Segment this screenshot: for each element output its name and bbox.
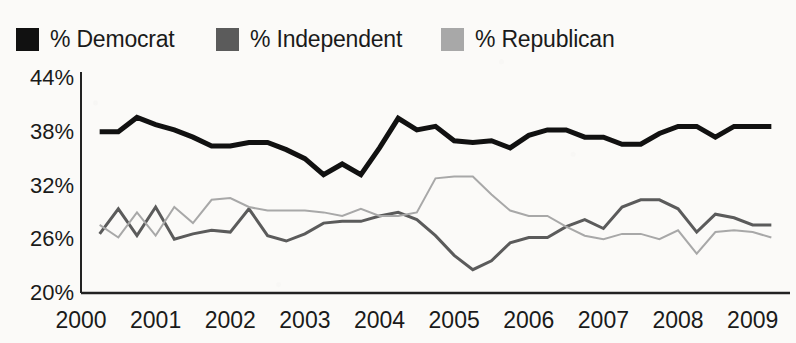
chart-legend: % Democrat % Independent % Republican bbox=[0, 18, 796, 64]
x-tick-label: 2002 bbox=[205, 307, 256, 334]
data-series-group bbox=[100, 117, 772, 269]
x-tick-label: 2000 bbox=[55, 307, 106, 334]
legend-swatch-democrat bbox=[16, 28, 39, 51]
x-tick-label: 2001 bbox=[130, 307, 181, 334]
legend-label-independent: % Independent bbox=[250, 26, 402, 53]
legend-item-democrat: % Democrat bbox=[16, 24, 175, 54]
x-tick-label: 2007 bbox=[578, 307, 629, 334]
legend-swatch-republican bbox=[441, 28, 464, 51]
x-axis-tick-labels: 2000200120022003200420052006200720082009 bbox=[0, 303, 796, 343]
legend-item-independent: % Independent bbox=[216, 24, 402, 54]
x-tick-label: 2009 bbox=[727, 307, 778, 334]
x-tick-label: 2004 bbox=[354, 307, 405, 334]
x-tick-label: 2005 bbox=[429, 307, 480, 334]
legend-label-republican: % Republican bbox=[475, 26, 615, 53]
x-tick-label: 2003 bbox=[279, 307, 330, 334]
plot-area bbox=[0, 64, 796, 309]
x-tick-label: 2006 bbox=[503, 307, 554, 334]
line-chart-svg bbox=[0, 64, 796, 309]
x-tick-label: 2008 bbox=[652, 307, 703, 334]
axis-lines bbox=[81, 72, 790, 293]
legend-swatch-independent bbox=[216, 28, 239, 51]
legend-label-democrat: % Democrat bbox=[50, 26, 175, 53]
chart-page: % Democrat % Independent % Republican 20… bbox=[0, 0, 796, 343]
legend-item-republican: % Republican bbox=[441, 24, 615, 54]
